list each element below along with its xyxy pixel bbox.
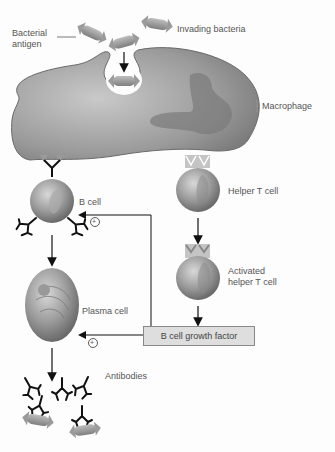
antibody-bound-bacterium-icon (21, 410, 55, 429)
antibody-icon (16, 373, 44, 402)
bacterium-icon (107, 31, 142, 53)
antibody-icon (70, 373, 97, 401)
engulfed-bacterium-icon (108, 74, 140, 88)
label-macrophage: Macrophage (262, 101, 312, 112)
plasma-cell (25, 268, 79, 342)
bacterium-icon (140, 14, 174, 33)
b-cell-growth-factor-box: B cell growth factor (143, 326, 255, 346)
label-helper-t-cell: Helper T cell (228, 186, 278, 197)
immune-response-diagram: Bacterialantigen Invading bacteria Macro… (0, 0, 335, 452)
bacterium-icon (75, 20, 110, 46)
b-cell-receptor-icon (44, 160, 60, 177)
label-activated-helper-t-cell: Activatedhelper T cell (228, 266, 277, 288)
label-antibodies: Antibodies (105, 371, 147, 382)
plus-marker-plasma-cell: + (90, 337, 94, 348)
label-b-cell: B cell (79, 197, 101, 208)
diagram-graphics (0, 0, 335, 452)
antibody-icon (52, 378, 72, 400)
label-plasma-cell: Plasma cell (82, 306, 128, 317)
plus-marker-b-cell: + (92, 216, 96, 227)
label-invading-bacteria: Invading bacteria (177, 24, 246, 35)
label-bacterial-antigen: Bacterialantigen (12, 28, 47, 50)
antibody-bound-bacterium-icon (68, 421, 102, 439)
